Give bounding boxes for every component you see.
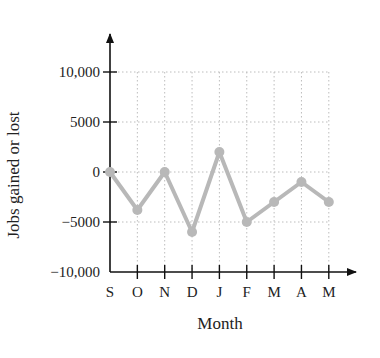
data-point [160,167,170,177]
data-point [296,177,306,187]
x-tick-label: M [267,284,280,300]
y-tick-label: 5000 [70,114,100,130]
x-tick-label: J [216,284,222,300]
x-axis-title: Month [197,314,243,333]
y-tick-label: −5000 [62,214,100,230]
x-tick-label: N [159,284,170,300]
data-point [105,167,115,177]
x-tick-label: O [132,284,143,300]
data-point [187,227,197,237]
x-tick-label: M [322,284,335,300]
data-point [132,205,142,215]
y-tick-label: −10,000 [50,264,100,280]
x-axis-ticks: SONDJFMAM [106,265,336,300]
x-tick-label: S [106,284,114,300]
axes [110,34,356,272]
y-tick-label: 10,000 [59,64,100,80]
line-chart: 10,00050000−5000−10,000 SONDJFMAM Month … [0,0,380,358]
y-tick-label: 0 [93,164,101,180]
gridlines [110,72,329,272]
data-point [324,197,334,207]
data-point [242,217,252,227]
x-tick-label: F [243,284,251,300]
data-point [269,197,279,207]
x-tick-label: D [187,284,198,300]
x-tick-label: A [296,284,307,300]
data-point [214,147,224,157]
y-axis-title: Jobs gained or lost [4,111,23,238]
